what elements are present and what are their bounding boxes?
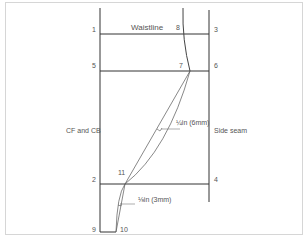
waistline-label: Waistline bbox=[131, 23, 164, 32]
point-7-label: 7 bbox=[179, 62, 183, 69]
point-11-label: 11 bbox=[118, 169, 125, 176]
point-6-label: 6 bbox=[214, 62, 218, 69]
point-8-label: 8 bbox=[176, 24, 180, 31]
point-2-label: 2 bbox=[92, 176, 96, 183]
point-3-label: 3 bbox=[214, 26, 218, 33]
measure-upper-label: ¼in (6mm) bbox=[176, 119, 209, 127]
point-9-label: 9 bbox=[92, 226, 96, 233]
curve-8-7 bbox=[183, 8, 190, 71]
square-marker-upper bbox=[157, 128, 162, 131]
pattern-draft-diagram: Waistline 1 8 3 5 7 6 ¼in (6mm) CF and C… bbox=[0, 0, 306, 238]
point-4-label: 4 bbox=[214, 176, 218, 183]
point-5-label: 5 bbox=[92, 62, 96, 69]
cf-cb-label: CF and CB bbox=[66, 127, 101, 134]
guide-11-10 bbox=[116, 184, 125, 232]
point-1-label: 1 bbox=[92, 26, 96, 33]
side-seam-label: Side seam bbox=[214, 127, 247, 134]
guide-7-11 bbox=[125, 71, 190, 184]
point-10-label: 10 bbox=[120, 226, 128, 233]
measure-lower-label: ⅛in (3mm) bbox=[138, 196, 171, 204]
